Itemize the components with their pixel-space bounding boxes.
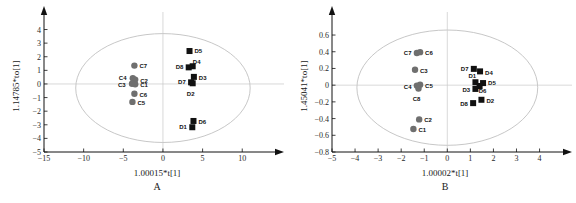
data-point-marker[interactable]	[416, 116, 422, 122]
data-point-label: C3	[420, 68, 428, 74]
y-axis-arrow-icon	[329, 6, 335, 15]
y-tick-label: −0.4	[314, 115, 329, 124]
x-axis-title: 1.00015*t[1]	[134, 168, 181, 178]
y-tick-label: 0	[37, 80, 41, 89]
data-point-label: D2	[187, 91, 195, 97]
y-tick-label: 0	[325, 81, 329, 90]
data-point-label: D7	[178, 79, 186, 85]
y-tick-label: 4	[37, 26, 41, 35]
y-tick-label: −1	[32, 94, 41, 103]
data-point-label: C4	[404, 84, 412, 90]
y-tick-label: −5	[32, 148, 41, 157]
data-point-marker[interactable]	[470, 100, 476, 106]
x-tick-label: −3	[374, 154, 383, 163]
data-point-label: D8	[176, 64, 184, 70]
data-point-label: C5	[425, 83, 433, 89]
x-tick-label: 1	[468, 154, 472, 163]
data-point-marker[interactable]	[415, 85, 421, 91]
data-point-marker[interactable]	[187, 48, 193, 54]
data-point-marker[interactable]	[189, 124, 195, 130]
panel-letter-label: B	[442, 181, 449, 192]
data-point-label: D8	[460, 101, 468, 107]
plot-canvas-b: −5−4−3−2−1012340.60.40.20−0.2−0.4−0.6−0.…	[288, 0, 576, 203]
y-tick-label: −3	[32, 121, 41, 130]
y-axis-arrow-icon	[41, 6, 47, 15]
y-tick-label: −0.6	[314, 131, 329, 140]
data-point-label: D1	[179, 124, 187, 130]
data-point-label: C1	[418, 127, 426, 133]
y-axis-title: 1.14785*to[1]	[11, 60, 21, 111]
data-point-label: D2	[486, 98, 494, 104]
scatter-panel-b: −5−4−3−2−1012340.60.40.20−0.2−0.4−0.6−0.…	[288, 0, 576, 203]
data-point-label: D4	[485, 70, 493, 76]
x-axis-arrow-icon	[275, 149, 284, 155]
y-axis-title: 1.45041*to[1]	[299, 60, 309, 111]
x-tick-label: 5	[201, 154, 205, 163]
data-point-marker[interactable]	[472, 86, 478, 92]
y-tick-label: −2	[32, 107, 41, 116]
data-point-marker[interactable]	[131, 62, 137, 68]
data-point-marker[interactable]	[131, 91, 137, 97]
data-point-label: D6	[198, 119, 206, 125]
data-point-label: C4	[119, 75, 127, 81]
x-tick-label: 2	[491, 154, 495, 163]
data-point-marker[interactable]	[478, 97, 484, 103]
scatter-panel-a: −15−10−5051043210−1−2−3−4−5C7C4C2C3C1C6C…	[0, 0, 288, 203]
y-tick-label: 2	[37, 53, 41, 62]
data-point-marker[interactable]	[412, 67, 418, 73]
y-tick-label: 0.4	[319, 48, 329, 57]
data-point-label: C2	[424, 117, 432, 123]
x-tick-label: −2	[397, 154, 406, 163]
data-point-marker[interactable]	[190, 118, 196, 124]
x-tick-label: −10	[77, 154, 90, 163]
data-point-marker[interactable]	[417, 49, 423, 55]
y-tick-label: −0.2	[314, 98, 329, 107]
data-point-marker[interactable]	[190, 80, 196, 86]
data-point-label: D6	[479, 88, 487, 94]
x-tick-label: 4	[538, 154, 542, 163]
x-tick-label: −4	[351, 154, 360, 163]
y-tick-label: 1	[37, 66, 41, 75]
data-point-marker[interactable]	[129, 99, 135, 105]
data-point-marker[interactable]	[191, 74, 197, 80]
data-point-label: D3	[462, 87, 470, 93]
y-tick-label: −4	[32, 134, 41, 143]
data-point-marker[interactable]	[477, 68, 483, 74]
data-point-marker[interactable]	[471, 66, 477, 72]
data-point-label: C3	[118, 82, 126, 88]
data-point-marker[interactable]	[410, 126, 416, 132]
panel-letter-label: A	[153, 181, 161, 192]
data-point-label: D5	[195, 48, 203, 54]
x-tick-label: 3	[514, 154, 518, 163]
data-point-label: C1	[140, 82, 148, 88]
y-tick-label: −0.8	[314, 148, 329, 157]
data-point-label: C6	[425, 50, 433, 56]
y-tick-label: 3	[37, 39, 41, 48]
data-point-label: D5	[488, 80, 496, 86]
data-point-marker[interactable]	[132, 81, 138, 87]
data-point-label: D1	[468, 73, 476, 79]
x-axis-title: 1.00002*t[1]	[422, 168, 469, 178]
data-point-label: C7	[139, 63, 147, 69]
x-tick-label: −5	[119, 154, 128, 163]
data-point-label: C8	[413, 96, 421, 102]
y-tick-label: 0.2	[319, 64, 329, 73]
x-tick-label: 0	[161, 154, 165, 163]
y-tick-label: 0.6	[319, 31, 329, 40]
data-point-label: D7	[461, 66, 469, 72]
plot-canvas-a: −15−10−5051043210−1−2−3−4−5C7C4C2C3C1C6C…	[0, 0, 288, 203]
x-tick-label: 0	[445, 154, 449, 163]
data-point-label: C7	[404, 50, 412, 56]
x-tick-label: −1	[420, 154, 429, 163]
data-point-label: C6	[139, 92, 147, 98]
x-tick-label: 10	[238, 154, 246, 163]
x-tick-label: −5	[328, 154, 337, 163]
data-point-label: D4	[193, 59, 201, 65]
data-point-label: C5	[137, 100, 145, 106]
x-axis-arrow-icon	[563, 149, 572, 155]
data-point-label: D3	[199, 75, 207, 81]
